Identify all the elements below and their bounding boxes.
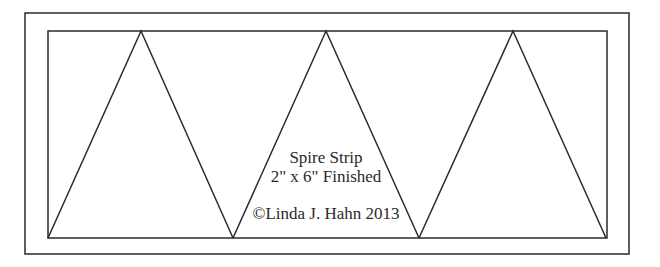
diagram-size-label: 2" x 6" Finished bbox=[233, 167, 419, 187]
spire-triangle-3 bbox=[419, 31, 606, 238]
copyright-text: ©Linda J. Hahn 2013 bbox=[233, 204, 419, 224]
spire-strip-diagram bbox=[0, 0, 660, 267]
diagram-title: Spire Strip bbox=[233, 148, 419, 168]
spire-triangle-1 bbox=[48, 31, 233, 238]
